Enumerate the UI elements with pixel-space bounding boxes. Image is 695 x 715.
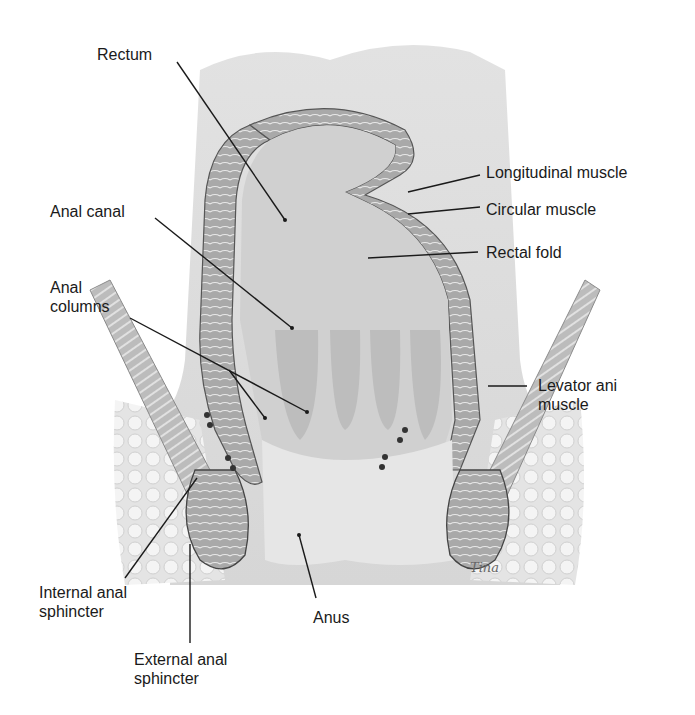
label-circular-muscle: Circular muscle	[486, 200, 596, 219]
label-longitudinal-muscle: Longitudinal muscle	[486, 163, 627, 182]
label-anal-columns: Anal columns	[50, 278, 110, 316]
artist-signature: Tina	[470, 560, 499, 575]
label-internal-sphincter: Internal anal sphincter	[39, 583, 127, 621]
label-anus: Anus	[313, 608, 349, 627]
label-rectum: Rectum	[97, 45, 152, 64]
label-levator-ani: Levator ani muscle	[538, 376, 617, 414]
label-external-sphincter: External anal sphincter	[134, 650, 227, 688]
label-anal-canal: Anal canal	[50, 202, 125, 221]
label-rectal-fold: Rectal fold	[486, 243, 562, 262]
